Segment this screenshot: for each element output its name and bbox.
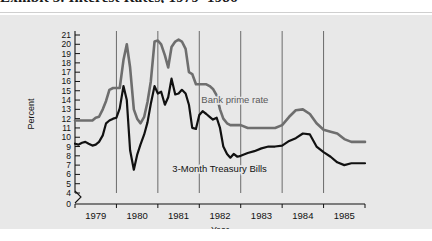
chart-panel: 0456789101112131415161718192021Percent19…	[0, 15, 432, 229]
y-tick-label-13: 13	[62, 104, 72, 114]
x-tick-label-1984: 1984	[292, 210, 313, 221]
y-tick-label-16: 16	[62, 76, 72, 86]
y-tick-label-12: 12	[62, 114, 72, 124]
y-tick-label-8: 8	[66, 151, 71, 161]
figure-screenshot: Exhibit 5. Interest Rates, 1979–1986 045…	[0, 0, 432, 241]
x-tick-label-1980: 1980	[127, 210, 148, 221]
chart-plot-area: 0456789101112131415161718192021Percent19…	[0, 15, 432, 229]
y-tick-label-10: 10	[62, 132, 72, 142]
x-tick-label-1979: 1979	[85, 210, 106, 221]
y-tick-label-17: 17	[62, 67, 72, 77]
y-tick-label-7: 7	[66, 160, 71, 170]
y-tick-label-4: 4	[66, 188, 71, 198]
y-axis-title: Percent	[26, 98, 36, 130]
y-tick-label-18: 18	[62, 58, 72, 68]
y-tick-label-21: 21	[62, 30, 72, 40]
y-tick-label-14: 14	[62, 95, 72, 105]
series-label-bank-prime-rate: Bank prime rate	[201, 94, 268, 105]
x-axis-title: Year	[211, 225, 229, 229]
caption-divider	[0, 12, 432, 13]
y-tick-label-11: 11	[62, 123, 71, 133]
y-tick-label-19: 19	[62, 49, 72, 59]
interest-rates-line-chart: 0456789101112131415161718192021Percent19…	[0, 15, 432, 229]
series-label-treasury-bills: 3-Month Treasury Bills	[172, 163, 267, 174]
exhibit-caption: Exhibit 5. Interest Rates, 1979–1986	[0, 0, 432, 3]
x-tick-label-1982: 1982	[209, 210, 230, 221]
x-tick-label-1983: 1983	[251, 210, 272, 221]
y-tick-label-0: 0	[66, 199, 71, 209]
x-tick-label-1981: 1981	[168, 210, 189, 221]
y-tick-label-5: 5	[66, 179, 71, 189]
y-tick-label-6: 6	[66, 169, 71, 179]
y-tick-label-15: 15	[62, 86, 72, 96]
y-tick-label-9: 9	[66, 142, 71, 152]
y-tick-label-20: 20	[62, 39, 72, 49]
x-tick-label-1985: 1985	[334, 210, 355, 221]
